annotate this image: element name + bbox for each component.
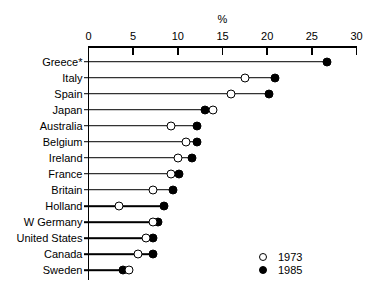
data-point-1973-5 bbox=[181, 137, 190, 146]
row-stem bbox=[89, 141, 197, 143]
x-tick-mark-5 bbox=[132, 48, 134, 55]
x-tick-mark-10 bbox=[177, 48, 179, 55]
category-tick-8 bbox=[84, 189, 88, 191]
category-label-ireland: Ireland bbox=[49, 152, 83, 163]
data-point-1985-5 bbox=[192, 137, 201, 146]
row-stem bbox=[89, 189, 174, 191]
category-tick-1 bbox=[84, 77, 88, 79]
data-point-1985-1 bbox=[271, 73, 280, 82]
data-point-1973-10 bbox=[148, 218, 157, 227]
category-tick-4 bbox=[84, 125, 88, 127]
x-tick-label-10: 10 bbox=[172, 31, 184, 42]
filled-circle-icon bbox=[259, 266, 267, 274]
category-tick-11 bbox=[84, 237, 88, 239]
data-point-1985-4 bbox=[193, 121, 202, 130]
chart-container: %051015202530Greece*ItalySpainJapanAustr… bbox=[0, 0, 372, 300]
category-label-sweden: Sweden bbox=[43, 265, 83, 276]
row-stem bbox=[89, 173, 179, 175]
legend-label: 1973 bbox=[278, 251, 302, 262]
data-point-1973-3 bbox=[208, 105, 217, 114]
category-tick-5 bbox=[84, 141, 88, 143]
data-point-1985-7 bbox=[174, 169, 183, 178]
category-tick-9 bbox=[84, 205, 88, 207]
category-label-canada: Canada bbox=[44, 249, 83, 260]
data-point-1985-8 bbox=[169, 185, 178, 194]
category-label-japan: Japan bbox=[53, 104, 83, 115]
x-tick-label-20: 20 bbox=[261, 31, 273, 42]
category-label-spain: Spain bbox=[54, 88, 82, 99]
x-tick-label-5: 5 bbox=[130, 31, 136, 42]
row-stem bbox=[89, 109, 213, 111]
data-point-1973-11 bbox=[141, 234, 150, 243]
y-axis-line bbox=[88, 46, 90, 280]
category-label-australia: Australia bbox=[40, 120, 83, 131]
data-point-1973-1 bbox=[240, 73, 249, 82]
category-label-greece: Greece* bbox=[42, 56, 82, 67]
legend-label: 1985 bbox=[278, 264, 302, 275]
data-point-1973-2 bbox=[227, 89, 236, 98]
category-tick-2 bbox=[84, 93, 88, 95]
data-point-1985-6 bbox=[188, 153, 197, 162]
x-tick-mark-20 bbox=[266, 48, 268, 55]
row-stem bbox=[89, 93, 269, 95]
category-label-holland: Holland bbox=[45, 200, 82, 211]
data-point-1973-12 bbox=[133, 250, 142, 259]
data-point-1973-13 bbox=[124, 266, 133, 275]
category-tick-13 bbox=[84, 269, 88, 271]
category-label-italy: Italy bbox=[62, 72, 82, 83]
row-stem bbox=[89, 205, 165, 207]
category-tick-7 bbox=[84, 173, 88, 175]
category-tick-3 bbox=[84, 109, 88, 111]
x-tick-mark-30 bbox=[356, 48, 358, 55]
x-tick-label-30: 30 bbox=[350, 31, 362, 42]
x-tick-mark-15 bbox=[222, 48, 224, 55]
data-point-1973-6 bbox=[173, 153, 182, 162]
data-point-1973-8 bbox=[148, 185, 157, 194]
open-circle-icon bbox=[259, 253, 267, 261]
x-tick-mark-25 bbox=[311, 48, 313, 55]
category-label-belgium: Belgium bbox=[43, 136, 83, 147]
data-point-1973-4 bbox=[166, 121, 175, 130]
data-point-1973-7 bbox=[166, 169, 175, 178]
category-label-britain: Britain bbox=[51, 184, 82, 195]
x-tick-label-15: 15 bbox=[216, 31, 228, 42]
category-tick-12 bbox=[84, 253, 88, 255]
category-tick-0 bbox=[84, 61, 88, 63]
category-tick-10 bbox=[84, 221, 88, 223]
data-point-1985-9 bbox=[160, 201, 169, 210]
x-tick-label-0: 0 bbox=[85, 31, 91, 42]
data-point-1973-9 bbox=[114, 201, 123, 210]
data-point-1985-2 bbox=[264, 89, 273, 98]
data-point-1985-12 bbox=[148, 250, 157, 259]
category-tick-6 bbox=[84, 157, 88, 159]
x-axis-title: % bbox=[218, 14, 228, 25]
category-label-united-states: United States bbox=[16, 233, 82, 244]
x-tick-label-25: 25 bbox=[306, 31, 318, 42]
category-label-france: France bbox=[48, 168, 82, 179]
category-label-w-germany: W Germany bbox=[24, 217, 83, 228]
data-point-1985-0 bbox=[323, 57, 332, 66]
row-stem bbox=[89, 253, 153, 255]
row-stem bbox=[89, 61, 328, 63]
row-stem bbox=[89, 125, 198, 127]
